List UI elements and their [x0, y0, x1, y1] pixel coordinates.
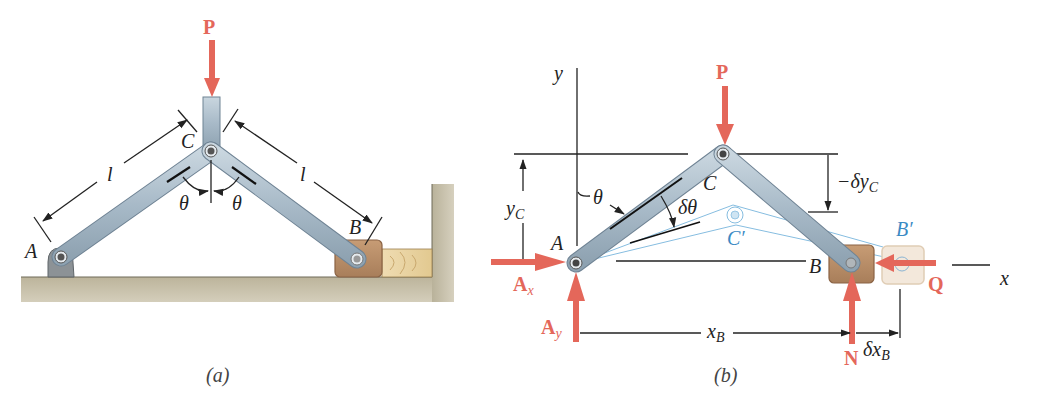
wood-spacer	[382, 249, 432, 277]
dim-xb-label: xB	[706, 320, 725, 345]
figure-b: y x yC −δyC	[491, 61, 1009, 387]
angle-theta-left: θ	[179, 192, 189, 214]
joint-label-b: B	[349, 216, 361, 238]
force-ax-arrow	[491, 253, 566, 271]
joint-label-c: C	[703, 172, 717, 194]
force-p-label: P	[203, 16, 215, 38]
caption-a: (a)	[206, 364, 230, 387]
load-post	[203, 97, 220, 149]
angle-theta-label: θ	[593, 186, 603, 208]
joint-label-a: A	[549, 232, 564, 254]
caption-b: (b)	[714, 364, 738, 387]
joint-label-b: B	[809, 255, 821, 277]
force-q-label: Q	[928, 273, 944, 295]
length-label-left: l	[107, 163, 113, 185]
dimension-delta-xb	[856, 289, 900, 338]
force-p-arrow	[716, 86, 734, 145]
force-n-label: N	[844, 347, 859, 369]
virtual-work-figure: P l l θ θ A B C (a)	[0, 0, 1038, 396]
force-p-label: P	[716, 61, 728, 83]
force-ay-label: Ay	[541, 316, 562, 341]
y-axis-label: y	[552, 62, 563, 85]
dim-delta-xb-label: δxB	[863, 338, 890, 363]
joint-label-c: C	[181, 130, 195, 152]
bar-ac	[576, 154, 723, 263]
length-label-right: l	[300, 163, 306, 185]
joint-label-a: A	[23, 240, 38, 262]
force-ax-label: Ax	[513, 273, 534, 298]
figure-a: P l l θ θ A B C (a)	[21, 16, 454, 387]
x-axis-label: x	[999, 267, 1009, 289]
joint-label-b-prime: B′	[896, 218, 913, 240]
joint-label-c-prime: C′	[727, 227, 745, 249]
angle-delta-theta-label: δθ	[678, 196, 697, 218]
angle-theta-right: θ	[232, 192, 242, 214]
force-ay-arrow	[567, 272, 585, 342]
force-p-arrow	[204, 40, 220, 97]
dim-delta-yc-label: −δyC	[837, 170, 879, 195]
